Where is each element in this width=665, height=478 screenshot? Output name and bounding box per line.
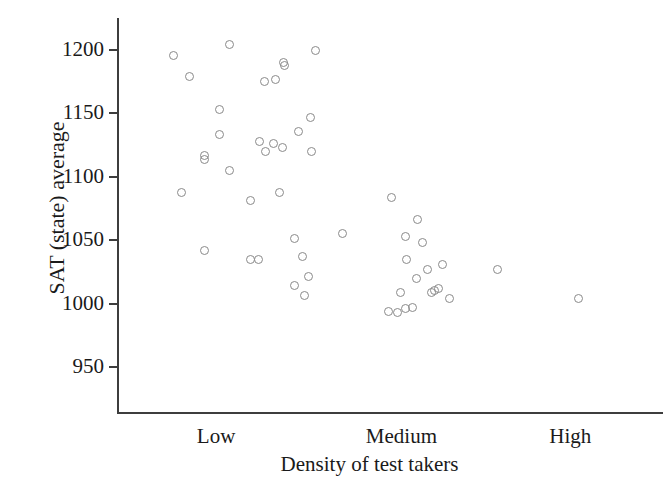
data-point: [298, 252, 307, 261]
data-point: [445, 294, 454, 303]
data-point: [427, 288, 436, 297]
data-point: [384, 307, 393, 316]
data-point: [408, 303, 417, 312]
data-point: [387, 193, 396, 202]
data-point: [307, 147, 316, 156]
data-point: [438, 260, 447, 269]
data-point: [271, 75, 280, 84]
data-point: [246, 196, 255, 205]
data-point: [278, 143, 287, 152]
scatter-plot-figure: 12001150110010501000950 LowMediumHigh De…: [0, 0, 665, 478]
data-point: [418, 238, 427, 247]
y-axis-title: SAT (state) average: [45, 58, 69, 358]
x-axis-category-label: Medium: [366, 424, 437, 448]
data-point: [574, 294, 583, 303]
data-point: [304, 272, 313, 281]
data-point: [260, 77, 269, 86]
data-point: [215, 130, 224, 139]
x-axis-category-label: High: [549, 424, 591, 448]
data-point: [169, 51, 178, 60]
data-point: [306, 113, 315, 122]
data-point: [261, 147, 270, 156]
data-point: [413, 215, 422, 224]
data-point: [396, 288, 405, 297]
data-point: [185, 72, 194, 81]
data-point: [290, 234, 299, 243]
data-point: [200, 246, 209, 255]
data-point: [300, 291, 309, 300]
data-point: [225, 166, 234, 175]
data-point: [290, 281, 299, 290]
data-point: [401, 232, 410, 241]
data-point: [177, 188, 186, 197]
data-point: [255, 137, 264, 146]
data-point: [280, 61, 289, 70]
data-point: [225, 40, 234, 49]
x-axis-category-label: Low: [197, 424, 236, 448]
data-point: [294, 127, 303, 136]
data-point: [269, 139, 278, 148]
data-point: [493, 265, 502, 274]
data-point: [402, 255, 411, 264]
data-point: [423, 265, 432, 274]
x-axis-title-text: Density of test takers: [207, 452, 459, 476]
data-points-layer: [0, 0, 665, 478]
data-point: [200, 155, 209, 164]
x-axis-title: Density of test takers: [0, 452, 665, 476]
data-point: [215, 105, 224, 114]
data-point: [275, 188, 284, 197]
data-point: [412, 274, 421, 283]
data-point: [338, 229, 347, 238]
data-point: [254, 255, 263, 264]
data-point: [311, 46, 320, 55]
